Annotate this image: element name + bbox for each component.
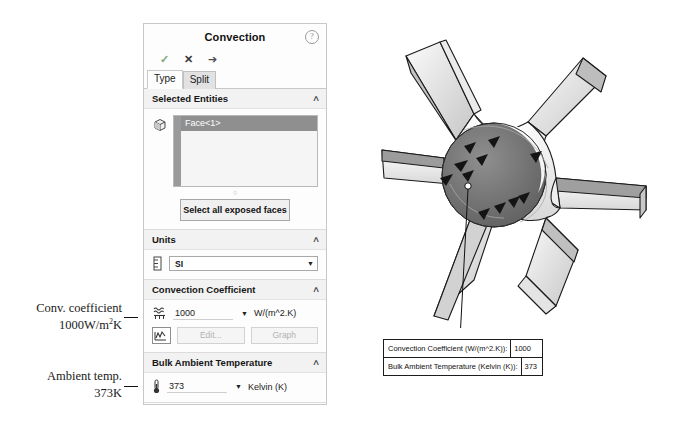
panel-tabs: Type Split: [144, 69, 326, 89]
thermometer-icon: [152, 379, 161, 394]
edit-button[interactable]: Edit...: [177, 327, 245, 344]
callout-value-convection-coefficient: 1000: [511, 340, 542, 357]
section-header-selected-entities[interactable]: Selected Entities ∧: [144, 89, 326, 109]
selected-entities-list[interactable]: Face<1>: [173, 115, 318, 187]
convection-coefficient-input[interactable]: 1000: [173, 307, 233, 320]
section-header-convection-coefficient[interactable]: Convection Coefficient ∧: [144, 280, 326, 300]
section-title-bulk-ambient-temperature: Bulk Ambient Temperature: [152, 357, 272, 368]
accept-checkmark-icon[interactable]: ✓: [152, 50, 176, 68]
section-body-units: SI ▼: [144, 250, 326, 279]
section-header-units[interactable]: Units ∧: [144, 230, 326, 250]
graph-button[interactable]: Graph: [251, 327, 319, 344]
annotation-conv-coefficient: Conv. coefficient 1000W/m2K: [0, 300, 122, 334]
units-selected-value: SI: [175, 259, 183, 269]
annotation-leader-conv: [124, 317, 138, 318]
table-row: Bulk Ambient Temperature (Kelvin (K)): 3…: [384, 358, 542, 375]
annotation-leader-ambient: [124, 386, 138, 387]
list-items-area[interactable]: Face<1>: [181, 116, 317, 186]
bulk-ambient-temperature-unit-label: Kelvin (K): [248, 382, 287, 392]
table-row: Convection Coefficient (W/(m^2.K)): 1000: [384, 340, 542, 358]
list-item[interactable]: Face<1>: [181, 116, 317, 131]
tab-type[interactable]: Type: [147, 70, 183, 89]
list-gutter: [174, 116, 181, 186]
chevron-down-icon[interactable]: ▼: [307, 260, 314, 267]
chevron-up-icon[interactable]: ∧: [312, 94, 320, 103]
leader-anchor-point: [465, 183, 471, 189]
chevron-down-icon[interactable]: ▼: [241, 310, 248, 317]
section-title-selected-entities: Selected Entities: [152, 93, 228, 104]
units-select[interactable]: SI ▼: [169, 256, 318, 271]
page-title: Convection: [205, 31, 266, 43]
resize-grip-icon[interactable]: ○: [152, 189, 318, 196]
annotation-conv-unit-suffix: K: [113, 318, 122, 332]
ambient-temperature-row: 373 ▼ Kelvin (K): [152, 379, 318, 394]
curve-icon[interactable]: [152, 327, 171, 344]
section-body-bulk-ambient-temperature: 373 ▼ Kelvin (K): [144, 373, 326, 402]
convection-buttons-row: Edit... Graph: [152, 327, 318, 344]
units-row: SI ▼: [152, 256, 318, 271]
section-body-selected-entities: Face<1> ○ Select all exposed faces: [144, 109, 326, 229]
select-all-exposed-faces-button[interactable]: Select all exposed faces: [180, 199, 290, 221]
callout-table: Convection Coefficient (W/(m^2.K)): 1000…: [383, 339, 543, 376]
annotation-conv-value: 1000W/m: [59, 318, 109, 332]
section-selected-entities: Selected Entities ∧: [144, 89, 326, 230]
chevron-up-icon[interactable]: ∧: [312, 358, 320, 367]
section-bulk-ambient-temperature: Bulk Ambient Temperature ∧ 373 ▼ Kelvin …: [144, 353, 326, 403]
face-cube-icon: [152, 117, 168, 133]
section-convection-coefficient: Convection Coefficient ∧: [144, 280, 326, 353]
section-body-convection-coefficient: 1000 ▼ W/(m^2.K) Edit... Graph: [144, 300, 326, 352]
section-title-convection-coefficient: Convection Coefficient: [152, 284, 255, 295]
convection-coefficient-unit-label: W/(m^2.K): [254, 308, 296, 318]
tab-split[interactable]: Split: [183, 71, 216, 89]
annotation-ambient-line2: 373K: [94, 386, 122, 400]
annotation-ambient-temp: Ambient temp. 373K: [0, 368, 122, 402]
help-icon[interactable]: ?: [305, 30, 319, 44]
annotation-conv-line1: Conv. coefficient: [36, 301, 122, 315]
bulk-ambient-temperature-input[interactable]: 373: [167, 380, 227, 393]
impeller-graphic: [378, 18, 678, 328]
model-viewport-impeller[interactable]: [378, 18, 678, 328]
convection-value-row: 1000 ▼ W/(m^2.K): [152, 306, 318, 320]
cancel-close-icon[interactable]: ✕: [176, 50, 200, 68]
units-ruler-icon: [152, 256, 163, 271]
section-units: Units ∧ SI ▼: [144, 230, 326, 280]
callout-value-bulk-ambient-temperature: 373: [522, 358, 543, 375]
chevron-up-icon[interactable]: ∧: [312, 285, 320, 294]
callout-label-bulk-ambient-temperature: Bulk Ambient Temperature (Kelvin (K)):: [384, 358, 522, 375]
annotation-conv-line2: 1000W/m2K: [59, 318, 122, 332]
property-manager-panel: Convection ? ✓ ✕ ➔ Type Split Selected E…: [143, 23, 327, 405]
annotation-ambient-line1: Ambient temp.: [47, 369, 122, 383]
screenshot-root: Conv. coefficient 1000W/m2K Ambient temp…: [0, 0, 686, 427]
panel-toolbar: ✓ ✕ ➔: [144, 49, 326, 69]
selection-row: Face<1>: [152, 115, 318, 187]
callout-label-convection-coefficient: Convection Coefficient (W/(m^2.K)):: [384, 340, 511, 357]
panel-title-bar: Convection ?: [144, 24, 326, 49]
pin-icon[interactable]: ➔: [200, 50, 224, 68]
chevron-down-icon[interactable]: ▼: [235, 383, 242, 390]
section-title-units: Units: [152, 234, 176, 245]
chevron-up-icon[interactable]: ∧: [312, 235, 320, 244]
convection-icon: [152, 306, 167, 320]
section-header-bulk-ambient-temperature[interactable]: Bulk Ambient Temperature ∧: [144, 353, 326, 373]
